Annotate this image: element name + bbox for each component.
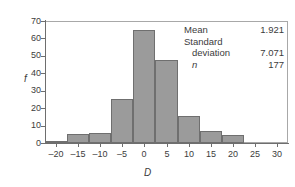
- stat-row-sd-line2: deviation 7.071: [184, 47, 284, 59]
- histogram-bar: [222, 135, 244, 143]
- histogram-bar: [67, 134, 89, 143]
- histogram-bar: [111, 99, 133, 143]
- x-axis-tick: [122, 143, 123, 147]
- y-axis-tick: [41, 126, 45, 127]
- y-axis-tick: [41, 143, 45, 144]
- stat-row-n: n 177: [184, 59, 284, 71]
- y-axis-tick: [41, 91, 45, 92]
- x-axis-tick: [144, 143, 145, 147]
- histogram-bar: [200, 131, 222, 143]
- y-axis-tick-label: 0: [11, 139, 41, 148]
- y-axis-tick-label: 10: [11, 121, 41, 130]
- y-axis-tick-label: 70: [11, 17, 41, 26]
- x-axis-tick-label: 30: [262, 150, 292, 159]
- y-axis-label: f: [24, 73, 27, 84]
- x-axis-tick: [56, 143, 57, 147]
- x-axis-tick: [211, 143, 212, 147]
- y-axis-tick-label: 60: [11, 34, 41, 43]
- histogram-bar: [155, 60, 177, 143]
- standard-deviation-label-line1: Standard: [184, 36, 223, 48]
- stat-row-mean: Mean 1.921: [184, 24, 284, 36]
- x-axis-tick: [78, 143, 79, 147]
- mean-value: 1.921: [260, 24, 284, 36]
- statistics-annotation: Mean 1.921 Standard deviation 7.071 n 17…: [184, 24, 284, 70]
- y-axis-tick-label: 50: [11, 51, 41, 60]
- histogram-bar: [89, 133, 111, 143]
- x-axis-tick: [189, 143, 190, 147]
- histogram-figure: 010203040506070 –20–15–10–5051015202530 …: [0, 0, 295, 187]
- stat-row-sd-line1: Standard: [184, 36, 284, 48]
- histogram-bar: [133, 30, 155, 143]
- x-axis-tick: [277, 143, 278, 147]
- sample-size-label: n: [192, 59, 197, 71]
- y-axis-tick: [41, 108, 45, 109]
- histogram-bar: [178, 116, 200, 143]
- y-axis-tick-label: 20: [11, 104, 41, 113]
- x-axis-tick: [255, 143, 256, 147]
- sample-size-value: 177: [268, 59, 284, 71]
- y-axis-tick: [41, 56, 45, 57]
- x-axis-tick: [233, 143, 234, 147]
- y-axis-tick: [41, 21, 45, 22]
- standard-deviation-value: 7.071: [260, 47, 284, 59]
- y-axis-tick: [41, 73, 45, 74]
- mean-label: Mean: [184, 24, 208, 36]
- y-axis-tick: [41, 38, 45, 39]
- x-axis-tick: [167, 143, 168, 147]
- standard-deviation-label-line2: deviation: [192, 47, 230, 59]
- y-axis-tick-label: 30: [11, 86, 41, 95]
- x-axis-label: D: [0, 167, 295, 178]
- x-axis-tick: [100, 143, 101, 147]
